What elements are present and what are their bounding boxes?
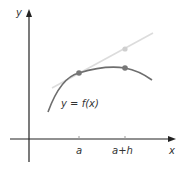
curve-label: y = f(x) bbox=[61, 99, 99, 109]
y-axis-arrow-icon bbox=[26, 9, 32, 17]
point-secant-projection bbox=[122, 46, 127, 51]
point-a-plus-h bbox=[122, 65, 128, 71]
point-a bbox=[76, 70, 82, 76]
tick-label-a-plus-h: a+h bbox=[112, 146, 133, 156]
tick-label-a: a bbox=[76, 146, 82, 156]
derivative-diagram: y x y = f(x) a a+h bbox=[0, 0, 188, 176]
diagram-canvas bbox=[0, 0, 188, 176]
x-axis-arrow-icon bbox=[168, 136, 176, 142]
x-axis-label: x bbox=[169, 146, 175, 156]
y-axis-label: y bbox=[16, 8, 22, 18]
